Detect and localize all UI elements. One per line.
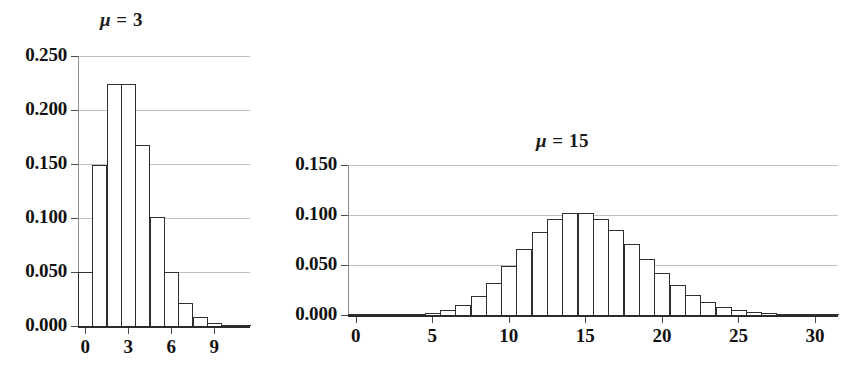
y-axis-tick <box>341 215 348 216</box>
histogram-bar <box>608 230 624 315</box>
y-axis-label: 0.200 <box>1 98 67 120</box>
y-axis-label: 0.000 <box>271 303 337 325</box>
chart2-title-mu: μ <box>536 130 547 151</box>
chart1-title-mu: μ <box>100 9 111 30</box>
x-axis-label: 6 <box>151 336 191 358</box>
x-axis-label: 20 <box>642 325 682 347</box>
y-axis-label: 0.150 <box>271 153 337 175</box>
histogram-bar <box>562 213 578 315</box>
histogram-bar <box>547 219 563 315</box>
x-axis-tick <box>738 317 739 323</box>
x-axis-tick <box>214 328 215 334</box>
y-axis-tick <box>71 56 78 57</box>
y-axis-line <box>348 165 349 315</box>
histogram-bar <box>624 244 640 315</box>
histogram-bar <box>532 232 548 315</box>
histogram-bar <box>78 272 93 326</box>
x-axis-line <box>78 326 250 328</box>
histogram-bar <box>639 259 655 315</box>
x-axis-tick <box>815 317 816 323</box>
histogram-bar <box>135 145 150 326</box>
y-axis-tick <box>71 272 78 273</box>
histogram-bar <box>164 272 179 326</box>
histogram-bar <box>516 249 532 315</box>
chart1-title: μ = 3 <box>100 9 143 31</box>
x-axis-line <box>348 315 838 317</box>
y-axis-tick <box>341 315 348 316</box>
x-axis-label: 5 <box>412 325 452 347</box>
histogram-bar <box>716 307 732 315</box>
x-axis-tick <box>128 328 129 334</box>
x-axis-label: 25 <box>718 325 758 347</box>
chart2-title: μ = 15 <box>536 130 589 152</box>
histogram-bar <box>654 273 670 315</box>
histogram-bar <box>107 84 122 326</box>
x-axis-tick <box>662 317 663 323</box>
y-axis-tick <box>341 165 348 166</box>
x-axis-label: 3 <box>108 336 148 358</box>
x-axis-label: 0 <box>336 325 376 347</box>
x-axis-label: 0 <box>65 336 105 358</box>
x-axis-tick <box>85 328 86 334</box>
x-axis-tick <box>356 317 357 323</box>
y-axis-label: 0.000 <box>1 314 67 336</box>
histogram-bar <box>700 302 716 315</box>
x-axis-tick <box>509 317 510 323</box>
chart1-title-rest: = 3 <box>111 9 143 30</box>
y-axis-tick <box>71 326 78 327</box>
y-axis-label: 0.250 <box>1 44 67 66</box>
gridline <box>78 56 250 57</box>
chart-poisson-mu-3: μ = 3 0.2500.2000.1500.1000.0500.0000369 <box>0 0 262 373</box>
x-axis-label: 30 <box>795 325 835 347</box>
histogram-bar <box>150 217 165 326</box>
y-axis-tick <box>341 265 348 266</box>
x-axis-label: 9 <box>194 336 234 358</box>
histogram-bar <box>455 305 471 315</box>
histogram-bar <box>471 296 487 315</box>
histogram-bar <box>193 317 208 326</box>
y-axis-label: 0.100 <box>1 206 67 228</box>
y-axis-tick <box>71 218 78 219</box>
histogram-bar <box>92 165 107 326</box>
x-axis-tick <box>171 328 172 334</box>
histogram-bar <box>178 303 193 326</box>
histogram-bar <box>121 84 136 326</box>
y-axis-label: 0.100 <box>271 203 337 225</box>
histogram-bar <box>685 295 701 315</box>
chart-poisson-mu-15: μ = 15 0.1500.1000.0500.000051015202530 <box>280 125 858 373</box>
chart2-title-rest: = 15 <box>547 130 589 151</box>
histogram-bar <box>670 285 686 315</box>
x-axis-tick <box>585 317 586 323</box>
y-axis-label: 0.050 <box>1 260 67 282</box>
histogram-bar <box>578 213 594 315</box>
x-axis-label: 10 <box>489 325 529 347</box>
y-axis-label: 0.050 <box>271 253 337 275</box>
gridline <box>348 165 838 166</box>
x-axis-tick <box>432 317 433 323</box>
y-axis-tick <box>71 110 78 111</box>
histogram-bar <box>593 219 609 315</box>
x-axis-label: 15 <box>565 325 605 347</box>
y-axis-tick <box>71 164 78 165</box>
histogram-bar <box>486 283 502 315</box>
gridline <box>78 110 250 111</box>
y-axis-label: 0.150 <box>1 152 67 174</box>
histogram-bar <box>501 266 517 315</box>
